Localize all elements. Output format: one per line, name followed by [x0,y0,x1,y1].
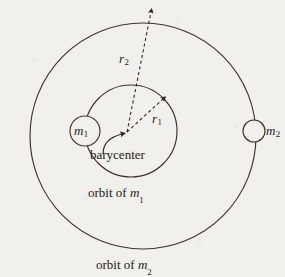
label-radius-r2: r2 [119,52,129,65]
body-m2-circle [243,120,265,142]
label-orbit-of-m1: orbit of m1 [88,186,144,202]
label-mass-m2: m2 [266,124,280,137]
outer-orbit-circle [30,23,256,249]
radius-r2-arrow [127,12,151,132]
label-mass-m1: m1 [74,124,88,137]
label-radius-r1: r1 [152,112,162,125]
label-barycenter: barycenter [90,148,145,161]
barycenter-diagram [0,0,285,277]
label-orbit-of-m2: orbit of m2 [96,258,152,274]
